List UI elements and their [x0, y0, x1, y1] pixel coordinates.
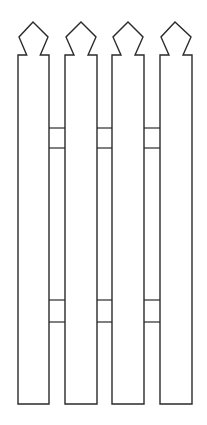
picket-3	[112, 22, 144, 404]
picket-fence-diagram	[0, 0, 207, 425]
picket-4	[160, 22, 192, 404]
picket-2	[65, 22, 97, 404]
picket-1	[18, 22, 49, 404]
